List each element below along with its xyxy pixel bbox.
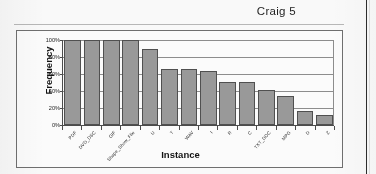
x-axis-tick-label: WAV <box>184 130 195 141</box>
bar-slot <box>237 40 256 125</box>
y-axis-tick-label: 60% <box>49 71 60 77</box>
x-axis-tick-label: GIF <box>108 130 117 139</box>
document-page: Craig 5 Frequency 100%80%60%40%20%0% PDF… <box>0 0 376 174</box>
bar-chart: Frequency 100%80%60%40%20%0% PDFDVD_DSCG… <box>16 30 343 168</box>
bar-slot <box>121 40 140 125</box>
x-axis-tick-label: PDF <box>68 130 78 140</box>
bar <box>161 69 178 125</box>
bar <box>239 82 256 125</box>
bar <box>277 96 294 125</box>
x-axis-tick-label: DVD_DSC <box>78 130 97 150</box>
y-axis-tick-label: 20% <box>49 105 60 111</box>
x-axis-tick <box>334 126 335 130</box>
bar <box>142 49 159 125</box>
x-axis-tick-label: TXT_DOC <box>254 130 273 150</box>
y-axis-tick-label: 100% <box>46 37 60 43</box>
page-edge-line <box>366 0 367 174</box>
x-axis-tick-label: U <box>149 130 155 136</box>
bar-series <box>63 40 334 125</box>
page-header: Craig 5 <box>0 3 358 25</box>
bar-slot <box>315 40 334 125</box>
bar <box>200 71 217 125</box>
bar-slot <box>102 40 121 125</box>
x-axis-tick-label: I <box>209 130 214 134</box>
bar-slot <box>160 40 179 125</box>
bar-slot <box>63 40 82 125</box>
bar <box>297 111 314 125</box>
x-axis-tick-label: MPG <box>281 130 292 141</box>
page-edge-shadow <box>369 0 370 174</box>
bar <box>181 69 198 125</box>
bar-slot <box>82 40 101 125</box>
x-axis-tick-label: T <box>169 130 175 136</box>
x-axis-tick-label: Z <box>325 130 331 136</box>
bar-slot <box>199 40 218 125</box>
bar-slot <box>257 40 276 125</box>
header-title: Craig 5 <box>257 5 296 17</box>
x-axis-tick-label: D <box>305 130 311 136</box>
header-divider <box>14 24 344 25</box>
bar-slot <box>179 40 198 125</box>
bar-slot <box>140 40 159 125</box>
x-axis-tick-label: C <box>247 130 253 136</box>
bar-slot <box>276 40 295 125</box>
bar <box>258 90 275 125</box>
bar <box>64 40 81 125</box>
plot-area: 100%80%60%40%20%0% <box>62 40 334 126</box>
y-axis-tick-label: 0% <box>52 122 60 128</box>
bar <box>316 115 333 125</box>
y-axis-tick-label: 40% <box>49 88 60 94</box>
x-axis-title: Instance <box>17 149 344 160</box>
bar-slot <box>218 40 237 125</box>
y-axis-tick-label: 80% <box>49 54 60 60</box>
x-axis-tick-label: R <box>227 130 233 136</box>
bar <box>103 40 120 125</box>
bar <box>122 40 139 125</box>
bar <box>219 82 236 125</box>
bar <box>84 40 101 125</box>
bar-slot <box>295 40 314 125</box>
